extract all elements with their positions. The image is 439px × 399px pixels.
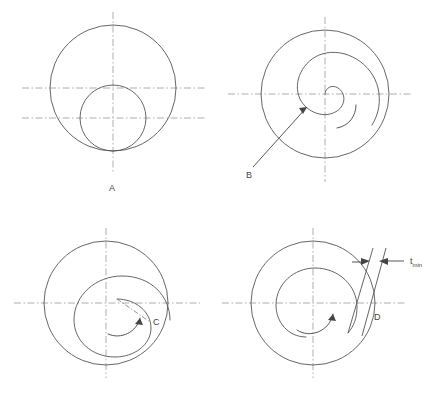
panel-b-label: B [246,170,252,180]
thickness-subscript: min [413,262,423,268]
four-panel-spiral-diagram: A B C [0,0,439,399]
panel-d-label: D [374,312,381,322]
panel-c-label: C [153,317,160,327]
diagram-background [0,0,439,399]
panel-a-label: A [109,183,115,193]
